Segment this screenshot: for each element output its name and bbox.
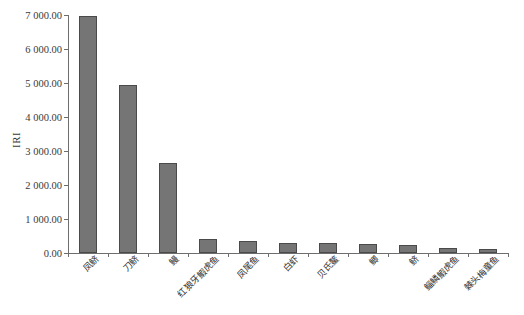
plot-area: 0.001 000.002 000.003 000.004 000.005 00… — [68, 15, 508, 253]
bar — [279, 243, 297, 253]
bar — [239, 241, 257, 253]
iri-bar-chart: IRI 0.001 000.002 000.003 000.004 000.00… — [0, 0, 524, 315]
y-tick-label: 4 000.00 — [25, 112, 62, 123]
x-tick-label: 凤鲚 — [81, 254, 101, 274]
y-tick-label: 2 000.00 — [25, 180, 62, 191]
x-tick-mark — [508, 253, 509, 257]
x-tick-label: 鲚 — [408, 254, 421, 267]
x-tick-label: 贝氏鳌 — [315, 254, 341, 280]
bar — [79, 16, 97, 253]
x-tick-label: 白虾 — [281, 254, 301, 274]
bar — [479, 249, 497, 253]
bar — [399, 245, 417, 253]
x-tick-label: 红狼牙鰕虎鱼 — [176, 254, 221, 299]
bar — [319, 243, 337, 253]
y-tick-label: 6 000.00 — [25, 44, 62, 55]
bar — [359, 244, 377, 253]
bar — [119, 85, 137, 253]
y-tick-label: 0.00 — [44, 248, 62, 259]
x-tick-label: 鳗 — [168, 254, 181, 267]
x-tick-label: 鲫 — [368, 254, 381, 267]
bar — [439, 248, 457, 253]
y-tick-label: 5 000.00 — [25, 78, 62, 89]
bars-layer — [68, 15, 508, 254]
y-axis-title: IRI — [6, 110, 26, 170]
x-tick-label: 凤尾鱼 — [235, 254, 261, 280]
y-tick-label: 7 000.00 — [25, 10, 62, 21]
bar — [159, 163, 177, 253]
x-tick-label: 棘头梅童鱼 — [462, 254, 501, 293]
x-tick-label: 刀鲚 — [121, 254, 141, 274]
y-tick-label: 3 000.00 — [25, 146, 62, 157]
bar — [199, 239, 217, 253]
y-tick-label: 1 000.00 — [25, 214, 62, 225]
x-axis-labels: 凤鲚刀鲚鳗红狼牙鰕虎鱼凤尾鱼白虾贝氏鳌鲫鲚鲻鳞鰕虎鱼棘头梅童鱼 — [68, 254, 508, 314]
x-tick-label: 鲻鳞鰕虎鱼 — [422, 254, 461, 293]
